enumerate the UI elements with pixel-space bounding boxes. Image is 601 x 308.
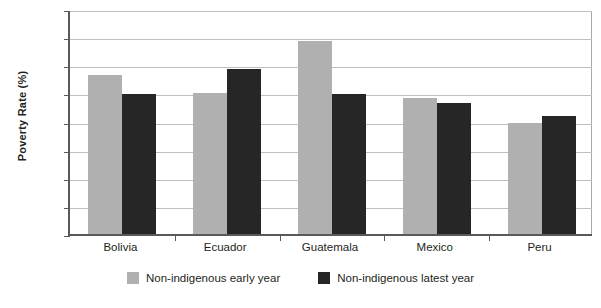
bar [332,94,366,234]
y-tick-mark [64,11,70,12]
chart-legend: Non-indigenous early yearNon-indigenous … [0,272,601,284]
bar-chart: Poverty Rate (%) 01020304050607080 Boliv… [0,0,601,308]
y-tick-mark [64,236,70,237]
y-tick-mark [64,180,70,181]
y-axis-title: Poverty Rate (%) [16,41,28,191]
x-axis-label-ecuador: Ecuador [173,241,278,253]
x-axis-label-guatemala: Guatemala [278,241,383,253]
bar [193,93,227,234]
bar [403,98,437,234]
legend-label: Non-indigenous early year [146,272,280,284]
x-axis-label-bolivia: Bolivia [68,241,173,253]
legend-swatch-early [127,272,139,284]
gridline [70,11,592,12]
x-axis-label-mexico: Mexico [382,241,487,253]
y-tick-mark [64,124,70,125]
bar [227,69,261,234]
y-tick-mark [64,95,70,96]
x-axis-label-peru: Peru [487,241,592,253]
plot-area: 01020304050607080 [68,11,592,236]
y-tick-mark [64,152,70,153]
legend-item: Non-indigenous early year [127,272,280,284]
y-tick-mark [64,208,70,209]
plot-frame-right [591,11,592,234]
legend-label: Non-indigenous latest year [337,272,474,284]
legend-swatch-latest [318,272,330,284]
gridline [70,39,592,40]
bar [508,123,542,234]
y-tick-mark [64,67,70,68]
bar [542,116,576,234]
bar [298,41,332,234]
bar [437,103,471,234]
bar [122,94,156,234]
legend-item: Non-indigenous latest year [318,272,474,284]
bar [88,75,122,234]
y-tick-mark [64,39,70,40]
